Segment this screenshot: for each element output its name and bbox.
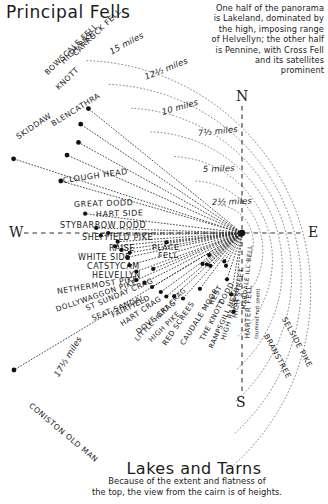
summit-dot[interactable] xyxy=(65,153,70,158)
footnote-line: Because of the extent and flatness of xyxy=(46,476,328,487)
summit-dot[interactable] xyxy=(222,259,226,263)
compass-south: S xyxy=(236,394,246,410)
summit-dot[interactable] xyxy=(78,122,83,127)
fell-name-label: HARTER FELL xyxy=(243,285,254,339)
summit-dot[interactable] xyxy=(200,262,204,266)
fell-name-label: CATSTYCAM xyxy=(87,262,140,271)
distance-ring-label: 2½ miles xyxy=(212,196,252,207)
footnote: Because of the extent and flatness of th… xyxy=(0,476,328,497)
summit-dot[interactable] xyxy=(11,156,16,161)
summit-dot[interactable] xyxy=(151,267,155,271)
fell-name-label: FELL xyxy=(158,251,178,260)
summit-dot[interactable] xyxy=(224,264,228,268)
summit-dot[interactable] xyxy=(207,253,211,257)
summit-dot[interactable] xyxy=(76,140,81,145)
compass-east: E xyxy=(308,224,318,240)
viewpoint-marker[interactable] xyxy=(239,230,245,236)
distance-ring-label: 5 miles xyxy=(203,163,235,174)
fell-name-label: SHEFFIELD PIKE xyxy=(82,233,153,242)
fell-name-label: STYBARROW DODD xyxy=(60,221,146,230)
fell-name-label: WHITE SIDE xyxy=(78,253,131,262)
summit-dot[interactable] xyxy=(12,368,17,373)
summit-dot[interactable] xyxy=(205,262,209,266)
fell-name-label: RAISE xyxy=(109,244,135,253)
summit-dot[interactable] xyxy=(159,290,163,294)
compass-north: N xyxy=(236,88,248,104)
footnote-line: the top, the view from the cairn is of h… xyxy=(46,487,328,498)
summit-dot[interactable] xyxy=(164,294,168,298)
fell-name-label: HART SIDE xyxy=(96,208,144,219)
summit-dot[interactable] xyxy=(83,212,87,216)
compass-west: W xyxy=(9,224,23,240)
panorama-diagram: Principal Fells One half of the panorama… xyxy=(0,0,328,504)
summit-dot[interactable] xyxy=(198,287,202,291)
